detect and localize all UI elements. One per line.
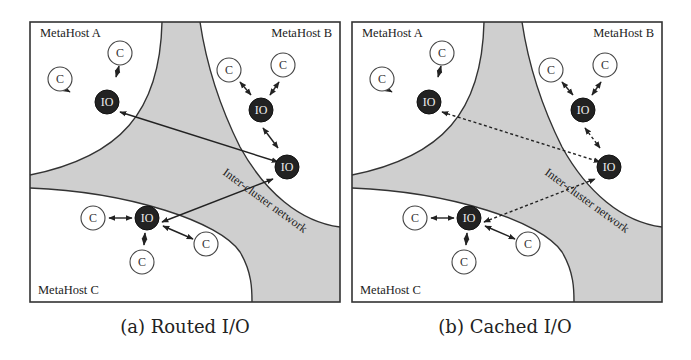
io-node: IO — [457, 206, 481, 230]
io-node: IO — [571, 98, 595, 122]
metahost-c-label: MetaHost C — [360, 283, 421, 297]
svg-text:C: C — [202, 237, 210, 251]
svg-text:C: C — [56, 72, 64, 86]
client-node: C — [48, 67, 72, 91]
io-node: IO — [249, 98, 273, 122]
client-node: C — [403, 206, 427, 230]
metahost-b-label: MetaHost B — [593, 26, 654, 40]
client-node: C — [539, 58, 563, 82]
io-node: IO — [95, 90, 119, 114]
svg-text:IO: IO — [423, 95, 436, 109]
link-c-c2-io — [466, 233, 467, 245]
caption-a: (a) Routed I/O — [120, 316, 250, 337]
metahost-a-label: MetaHost A — [40, 26, 101, 40]
svg-text:C: C — [378, 72, 386, 86]
client-node: C — [81, 206, 105, 230]
client-node: C — [130, 250, 154, 274]
svg-text:C: C — [89, 211, 97, 225]
io-gateway-node: IO — [597, 155, 621, 179]
svg-text:IO: IO — [141, 211, 154, 225]
client-node: C — [370, 67, 394, 91]
io-gateway-node: IO — [275, 155, 299, 179]
svg-text:IO: IO — [255, 103, 268, 117]
link-c-c2-io — [144, 233, 145, 245]
svg-text:C: C — [547, 63, 555, 77]
svg-text:C: C — [524, 237, 532, 251]
metahost-a-label: MetaHost A — [362, 26, 423, 40]
svg-text:IO: IO — [603, 160, 616, 174]
client-node: C — [593, 53, 617, 77]
metahost-b-label: MetaHost B — [271, 26, 332, 40]
svg-text:C: C — [279, 58, 287, 72]
svg-text:C: C — [225, 63, 233, 77]
io-node: IO — [135, 206, 159, 230]
svg-text:IO: IO — [463, 211, 476, 225]
client-node: C — [108, 41, 132, 65]
svg-text:C: C — [138, 255, 146, 269]
client-node: C — [430, 41, 454, 65]
svg-text:C: C — [411, 211, 419, 225]
panel-a: MetaHost A MetaHost B MetaHost C Inter-c… — [30, 22, 340, 302]
svg-text:C: C — [460, 255, 468, 269]
svg-text:C: C — [601, 58, 609, 72]
client-node: C — [217, 58, 241, 82]
svg-text:IO: IO — [101, 95, 114, 109]
caption-b: (b) Cached I/O — [438, 316, 571, 337]
metahost-c-label: MetaHost C — [38, 283, 99, 297]
client-node: C — [194, 232, 218, 256]
client-node: C — [271, 53, 295, 77]
svg-text:C: C — [116, 46, 124, 60]
svg-text:IO: IO — [577, 103, 590, 117]
figure: MetaHost A MetaHost B MetaHost C Inter-c… — [0, 0, 691, 360]
svg-text:C: C — [438, 46, 446, 60]
client-node: C — [516, 232, 540, 256]
client-node: C — [452, 250, 476, 274]
panel-b: MetaHost A MetaHost B MetaHost C Inter-c… — [352, 22, 662, 302]
io-node: IO — [417, 90, 441, 114]
svg-text:IO: IO — [281, 160, 294, 174]
